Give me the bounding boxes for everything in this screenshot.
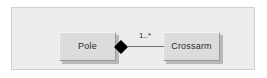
class-box-pole[interactable]: Pole <box>59 32 116 61</box>
class-name-crossarm: Crossarm <box>171 42 212 51</box>
class-box-crossarm[interactable]: Crossarm <box>163 32 220 61</box>
class-name-pole: Pole <box>78 42 97 51</box>
diagram-frame: Pole Crossarm 1..* <box>11 7 255 70</box>
filled-diamond-icon <box>113 39 129 55</box>
association-line[interactable] <box>128 46 164 47</box>
multiplicity-label-crossarm: 1..* <box>139 32 151 40</box>
diagram-canvas: Pole Crossarm 1..* <box>0 0 267 78</box>
